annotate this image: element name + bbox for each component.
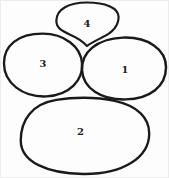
oval-3-label: 3 <box>40 58 47 69</box>
blob-diagram: 1 2 3 4 <box>1 1 168 177</box>
oval-4-label: 4 <box>84 18 91 29</box>
oval-1-label: 1 <box>122 64 129 75</box>
oval-2-outline <box>21 98 149 174</box>
diagram-canvas: 1 2 3 4 <box>0 0 169 178</box>
oval-2-label: 2 <box>77 126 84 137</box>
